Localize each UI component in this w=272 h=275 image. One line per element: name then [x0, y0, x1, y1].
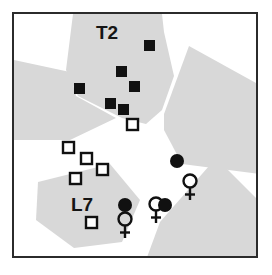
open-square-4 — [97, 164, 108, 175]
open-square-1 — [127, 119, 138, 130]
filled-square-3 — [129, 81, 140, 92]
label-l7: L7 — [71, 194, 93, 215]
filled-square-5 — [105, 98, 116, 109]
filled-square-2 — [116, 66, 127, 77]
filled-circle-1 — [170, 154, 184, 168]
open-square-5 — [70, 173, 81, 184]
open-square-2 — [63, 142, 74, 153]
filled-square-4 — [74, 83, 85, 94]
figure-root: T2 L7 — [0, 0, 272, 275]
shaded-regions-group — [14, 14, 256, 256]
filled-circle-2 — [118, 198, 132, 212]
open-square-3 — [81, 153, 92, 164]
filled-circle-3 — [158, 198, 172, 212]
open-square-6 — [86, 217, 97, 228]
filled-square-6 — [118, 104, 129, 115]
filled-square-1 — [144, 40, 155, 51]
plot-frame: T2 L7 — [12, 12, 258, 258]
territory-map-svg: T2 L7 — [14, 14, 256, 256]
label-t2: T2 — [96, 22, 118, 43]
